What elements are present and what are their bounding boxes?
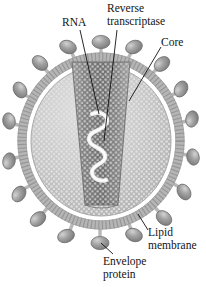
- label-reverse-transcriptase-line2: transcriptase: [107, 15, 165, 28]
- label-envelope-protein-line2: protein: [103, 268, 146, 281]
- label-lipid-membrane-line2: membrane: [148, 239, 197, 252]
- label-lipid-membrane: Lipid membrane: [148, 226, 197, 251]
- label-lipid-membrane-line1: Lipid: [148, 226, 197, 239]
- label-core: Core: [161, 36, 183, 49]
- label-reverse-transcriptase-line1: Reverse: [107, 2, 165, 15]
- virus-diagram: RNA Reverse transcriptase Core Lipid mem…: [0, 0, 206, 287]
- label-envelope-protein-line1: Envelope: [103, 255, 146, 268]
- label-rna: RNA: [62, 16, 86, 29]
- label-envelope-protein: Envelope protein: [103, 255, 146, 280]
- label-reverse-transcriptase: Reverse transcriptase: [107, 2, 165, 27]
